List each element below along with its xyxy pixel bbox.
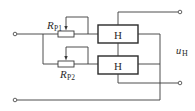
svg-text:H: H <box>182 49 188 58</box>
terminal-output-top <box>178 10 182 14</box>
terminal-input-top <box>13 32 17 36</box>
terminal-output-bottom <box>178 81 182 85</box>
svg-text:P1: P1 <box>54 24 62 33</box>
label-rp1: R P1 <box>46 19 62 33</box>
circuit-diagram: H H R P1 R P2 u H <box>0 0 195 111</box>
terminal-input-bottom <box>13 98 17 102</box>
hall-element-h1: H <box>98 25 138 43</box>
svg-text:P2: P2 <box>67 73 75 82</box>
svg-text:u: u <box>176 45 181 56</box>
svg-text:R: R <box>59 68 67 80</box>
label-rp2: R P2 <box>59 68 75 82</box>
svg-text:H: H <box>114 29 122 41</box>
svg-text:R: R <box>46 19 54 31</box>
label-output-voltage: u H <box>176 45 188 58</box>
hall-element-h2: H <box>98 56 138 74</box>
svg-text:H: H <box>114 60 122 72</box>
